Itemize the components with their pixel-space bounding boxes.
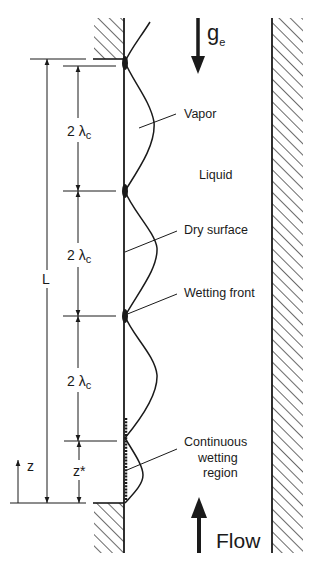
- wetting-front-markers: [122, 56, 128, 323]
- annotation-wetting-front: Wetting front: [125, 286, 255, 315]
- liquid-label: Liquid: [199, 168, 232, 182]
- svg-text:2 λc: 2 λc: [67, 123, 92, 141]
- length-label: L: [42, 271, 50, 287]
- z-axis: z: [18, 458, 34, 503]
- svg-text:Wetting front: Wetting front: [184, 286, 255, 300]
- outer-wall: [272, 18, 303, 553]
- dimension-wavelength-2: 2 λc: [67, 191, 92, 316]
- dimension-wavelength-3: 2 λc: [67, 316, 92, 441]
- svg-text:2 λc: 2 λc: [67, 373, 92, 391]
- svg-text:Dry surface: Dry surface: [184, 223, 248, 237]
- flow-label: Flow: [216, 529, 261, 552]
- z-star-label: z*: [73, 463, 86, 479]
- heated-wall-upper: [93, 18, 124, 59]
- svg-text:Vapor: Vapor: [184, 107, 216, 121]
- annotation-dry-surface: Dry surface: [125, 223, 248, 252]
- svg-text:region: region: [203, 466, 238, 480]
- heated-wall-lower: [93, 503, 124, 553]
- vapor-liquid-interface: [125, 22, 157, 503]
- annotation-continuous-wetting: Continuous wetting region: [127, 435, 247, 480]
- dimension-z-star: z*: [73, 441, 86, 503]
- gravity-label: g: [207, 20, 219, 45]
- flow-arrow: Flow: [191, 497, 261, 553]
- wavelength-ticks: [10, 66, 117, 503]
- svg-text:2 λc: 2 λc: [67, 247, 92, 265]
- rewetting-diagram: L 2 λc 2 λc 2 λc z* z ge: [0, 0, 321, 573]
- gravity-arrow: ge: [191, 18, 225, 74]
- svg-text:Continuous: Continuous: [184, 435, 247, 449]
- svg-text:ge: ge: [207, 20, 225, 48]
- svg-text:wetting: wetting: [197, 451, 238, 465]
- z-label: z: [27, 458, 34, 474]
- dimension-wavelength-1: 2 λc: [67, 66, 92, 191]
